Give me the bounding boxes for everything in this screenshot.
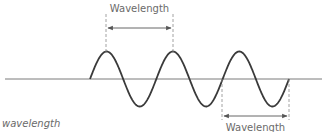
wavelength-diagram: Wavelength Wavelength wavelength xyxy=(0,0,324,132)
caption-text: wavelength xyxy=(2,118,60,129)
bottom-wavelength-label: Wavelength xyxy=(226,122,285,132)
top-wavelength-label: Wavelength xyxy=(110,3,169,14)
